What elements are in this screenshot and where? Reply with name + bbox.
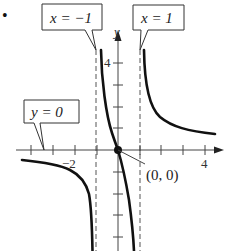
curve-branch-left bbox=[22, 160, 93, 251]
y-tick-label-4: 4 bbox=[104, 55, 111, 70]
curve-branch-right bbox=[144, 50, 215, 134]
x-tick-label-4: 4 bbox=[201, 156, 208, 171]
callout-y-0-text: y = 0 bbox=[29, 104, 63, 120]
callout-x-neg1-text: x = −1 bbox=[49, 10, 92, 26]
bullet-marker: • bbox=[2, 7, 8, 24]
callout-y-0: y = 0 bbox=[24, 100, 79, 150]
callout-x-neg1: x = −1 bbox=[42, 4, 102, 50]
x-axis-arrow-icon bbox=[214, 147, 224, 154]
origin-point-label: (0, 0) bbox=[146, 167, 179, 184]
rational-function-graph: • −2 4 4 bbox=[0, 0, 229, 251]
y-axis-label: y bbox=[112, 24, 120, 39]
callout-x-1: x = 1 bbox=[133, 5, 184, 50]
callout-x-1-text: x = 1 bbox=[140, 10, 173, 26]
